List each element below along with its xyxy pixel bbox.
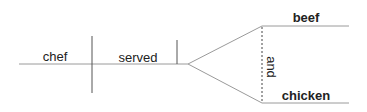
- fork-lower: [188, 64, 262, 103]
- fork-upper: [188, 26, 262, 64]
- subject-word: chef: [43, 49, 68, 64]
- sentence-diagram: chef served beef chicken and: [0, 0, 367, 112]
- verb-word: served: [118, 50, 157, 65]
- conjunction-word: and: [264, 56, 279, 78]
- object-word-2: chicken: [282, 88, 330, 103]
- object-word-1: beef: [293, 10, 320, 25]
